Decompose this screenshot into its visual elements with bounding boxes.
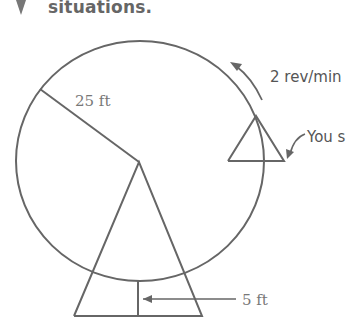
you-label: You s [306,128,346,146]
rotation-arrow-curve [236,66,262,100]
wheel-circle [16,41,264,281]
you-pointer-head-icon [286,149,294,159]
you-pointer-curve [290,134,305,154]
speed-label: 2 rev/min [270,68,342,86]
height-label: 5 ft [242,291,268,309]
height-arrow-head-icon [143,295,152,303]
radius-label: 25 ft [75,92,110,110]
ferris-wheel-diagram: 25 ft 2 rev/min You s 5 ft [0,0,354,326]
rider-triangle [228,116,284,161]
